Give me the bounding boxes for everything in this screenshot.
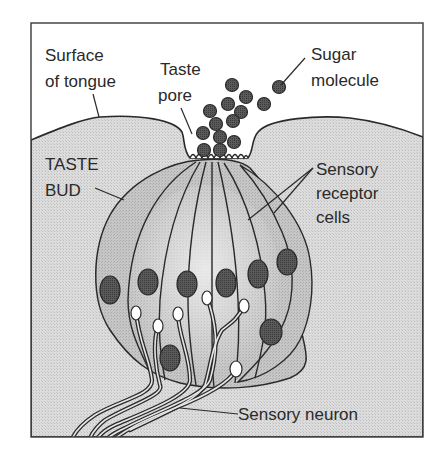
taste-bud-diagram: Surface of tongue Taste pore Sugar molec…	[0, 0, 447, 461]
label-sensory-neuron: Sensory neuron	[238, 405, 358, 424]
